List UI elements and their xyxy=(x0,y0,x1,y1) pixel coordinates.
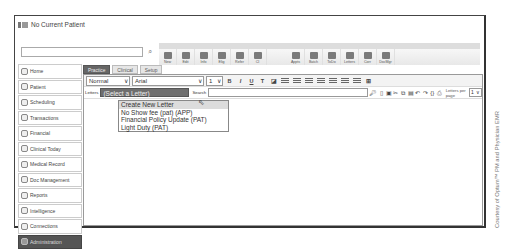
sidebar-item-home[interactable]: Home xyxy=(18,64,82,79)
toolbar-todo-button[interactable]: ToDo xyxy=(323,49,341,65)
sidebar-item-administration[interactable]: Administration xyxy=(18,235,82,250)
sidebar-item-financial[interactable]: Financial xyxy=(18,126,82,141)
font-select[interactable]: Arial∨ xyxy=(132,76,204,86)
key-icon[interactable]: 🔑︎ xyxy=(369,89,377,97)
sidebar-item-doc-management[interactable]: Doc Management xyxy=(18,173,82,188)
bold-button[interactable]: B xyxy=(225,78,234,84)
sidebar-item-clinical-today[interactable]: Clinical Today xyxy=(18,142,82,157)
ci-icon xyxy=(254,52,262,59)
letters-per-page-label: Letters per page xyxy=(446,88,467,98)
patient-search-input[interactable] xyxy=(21,47,143,57)
sidebar-item-connections[interactable]: Connections xyxy=(18,219,82,234)
text-color-icon[interactable]: T xyxy=(258,78,267,84)
format-toolbar: Normal∨ Arial∨ 1∨ B I U T ◪ ⊞ xyxy=(84,75,482,87)
sidebar-item-patient[interactable]: Patient xyxy=(18,80,82,95)
window-title: No Current Patient xyxy=(18,21,85,28)
current-patient-label: No Current Patient xyxy=(31,21,85,28)
chevron-down-icon: ∨ xyxy=(124,77,129,85)
reports-icon xyxy=(21,192,28,199)
connections-icon xyxy=(21,223,28,230)
edit-icon xyxy=(182,52,190,59)
toolbar-edit-button[interactable]: Edit xyxy=(177,49,195,65)
italic-button[interactable]: I xyxy=(236,78,245,84)
align-left-icon[interactable] xyxy=(281,78,289,84)
info-icon xyxy=(200,52,208,59)
toolbar-elig-button[interactable]: Elig xyxy=(213,49,231,65)
eligibility-icon xyxy=(218,52,226,59)
sidebar-item-transactions[interactable]: Transactions xyxy=(18,111,82,126)
financial-icon xyxy=(21,130,28,137)
mouse-cursor-icon: ⇖ xyxy=(198,98,205,107)
gears-icon xyxy=(21,238,28,245)
patient-search-button[interactable]: ⌕ xyxy=(148,47,158,57)
main-toolbar: New Edit Info Elig Refer CI Appts Batch … xyxy=(159,43,480,65)
stethoscope-icon xyxy=(21,145,28,152)
toolbar-batch-button[interactable]: Batch xyxy=(305,49,323,65)
letter-dropdown-list: Create New Letter No Show fee (pat) (APP… xyxy=(118,100,229,132)
toolbar-letters-button[interactable]: Letters xyxy=(341,49,359,65)
letter-editor: Normal∨ Arial∨ 1∨ B I U T ◪ ⊞ Letters (S… xyxy=(83,74,483,226)
sidebar-item-intelligence[interactable]: Intelligence xyxy=(18,204,82,219)
toolbar-docmgr-button[interactable]: DocMgr xyxy=(377,49,395,65)
print-icon[interactable]: ⎙ xyxy=(436,89,442,97)
numbered-list-icon[interactable] xyxy=(317,78,325,84)
style-select[interactable]: Normal∨ xyxy=(86,76,130,86)
image-credit: Courtesy of Optum™ PM and Physician EMR xyxy=(494,111,500,228)
batch-icon xyxy=(310,52,318,59)
toolbar-info-button[interactable]: Info xyxy=(195,49,213,65)
new-document-icon[interactable]: ▯ xyxy=(378,89,384,97)
chevron-down-icon: ∨ xyxy=(476,89,480,96)
merge-fields-icon[interactable]: {} xyxy=(429,89,435,97)
letters-icon xyxy=(346,52,354,59)
align-right-icon[interactable] xyxy=(305,78,313,84)
tab-clinical[interactable]: Clinical xyxy=(112,65,137,74)
table-icon[interactable]: ⊞ xyxy=(364,78,373,84)
indent-icon[interactable] xyxy=(353,78,361,84)
application-window: No Current Patient ⌕ New Edit Info Elig … xyxy=(14,15,486,228)
toolbar-new-button[interactable]: New xyxy=(159,49,177,65)
refer-icon xyxy=(236,52,244,59)
appointments-icon xyxy=(292,52,300,59)
sidebar-item-scheduling[interactable]: Scheduling xyxy=(18,95,82,110)
paste-icon[interactable]: ▤ xyxy=(407,89,413,97)
copy-icon[interactable]: ⧉ xyxy=(400,89,406,97)
sidebar-item-reports[interactable]: Reports xyxy=(18,188,82,203)
highlight-icon[interactable]: ◪ xyxy=(269,78,278,84)
correspondence-icon xyxy=(364,52,372,59)
tab-setup[interactable]: Setup xyxy=(140,65,163,74)
medical-record-icon xyxy=(21,161,28,168)
dropdown-option-create-new-letter[interactable]: Create New Letter xyxy=(119,101,228,109)
letters-per-page-select[interactable]: 1∨ xyxy=(469,88,482,97)
tab-practice[interactable]: Practice xyxy=(83,65,110,74)
underline-button[interactable]: U xyxy=(247,78,256,84)
chevron-down-icon: ∨ xyxy=(217,77,222,85)
letter-select[interactable]: (Select a Letter) xyxy=(100,88,189,97)
toolbar-refer-button[interactable]: Refer xyxy=(231,49,249,65)
clock-icon xyxy=(21,99,28,106)
outdent-icon[interactable] xyxy=(341,78,349,84)
cut-icon[interactable]: ✂ xyxy=(393,89,399,97)
dropdown-option-no-show-fee[interactable]: No Show fee (pat) (APP) xyxy=(119,109,228,117)
align-center-icon[interactable] xyxy=(293,78,301,84)
letter-toolbar: Letters (Select a Letter) Search 🔑︎ ▯ ▣ … xyxy=(84,87,482,99)
toolbar-ci-button[interactable]: CI xyxy=(249,49,267,65)
toolbar-corr-button[interactable]: Corr xyxy=(359,49,377,65)
app-logo-icon xyxy=(18,22,28,28)
sidebar-item-medical-record[interactable]: Medical Record xyxy=(18,157,82,172)
transactions-icon xyxy=(21,114,28,121)
intelligence-icon xyxy=(21,207,28,214)
bulleted-list-icon[interactable] xyxy=(329,78,337,84)
dropdown-option-financial-policy-update[interactable]: Financial Policy Update (PAT) xyxy=(119,116,228,124)
save-icon[interactable]: ▣ xyxy=(386,89,392,97)
home-arrow-icon xyxy=(21,68,28,75)
document-manager-icon xyxy=(382,52,390,59)
section-tabs: Practice Clinical Setup xyxy=(83,65,162,74)
toolbar-appts-button[interactable]: Appts xyxy=(287,49,305,65)
font-size-select[interactable]: 1∨ xyxy=(206,76,223,86)
patient-icon xyxy=(21,83,28,90)
letter-search-input[interactable] xyxy=(208,88,368,97)
todo-icon xyxy=(328,52,336,59)
dropdown-option-light-duty[interactable]: Light Duty (PAT) xyxy=(119,124,228,132)
undo-icon[interactable]: ↶ xyxy=(415,89,421,97)
redo-icon[interactable]: ↷ xyxy=(422,89,428,97)
